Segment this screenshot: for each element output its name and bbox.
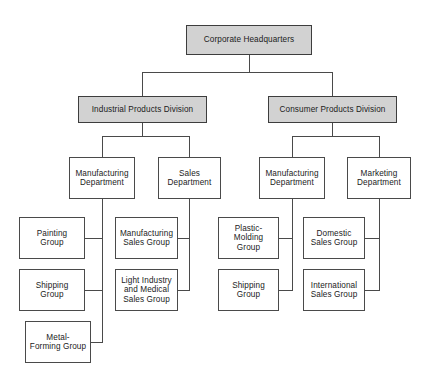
org-node-shipping-2: Shipping Group	[218, 269, 279, 311]
org-node-ind-mfg: Manufacturing Department	[69, 157, 135, 199]
connector-ind-mfg-to-metal-forming	[91, 199, 102, 342]
org-node-hq: Corporate Headquarters	[186, 25, 312, 55]
connector-con-mkt-to-domestic-sales	[365, 199, 379, 238]
org-node-con-div: Consumer Products Division	[268, 96, 397, 123]
connector-con-div-to-con-mfg	[292, 123, 333, 157]
org-node-domestic-sales: Domestic Sales Group	[303, 217, 365, 259]
connector-ind-sales-to-light-ind-sales	[178, 199, 190, 290]
connector-con-mfg-to-plastic-molding	[279, 199, 292, 238]
connector-ind-mfg-to-shipping-1	[85, 199, 102, 290]
connector-hq-to-con-div	[249, 55, 333, 96]
org-node-con-mkt: Marketing Department	[347, 157, 411, 199]
connector-hq-to-ind-div	[143, 55, 250, 96]
org-chart: Corporate HeadquartersIndustrial Product…	[0, 0, 428, 382]
org-node-metal-forming: Metal- Forming Group	[25, 321, 91, 363]
connector-ind-mfg-to-painting	[85, 199, 102, 238]
connector-con-div-to-con-mkt	[333, 123, 380, 157]
org-node-painting: Painting Group	[19, 217, 85, 259]
connector-con-mkt-to-international-sales	[365, 199, 379, 290]
connector-ind-div-to-ind-mfg	[102, 123, 143, 157]
org-node-light-ind-sales: Light Industry and Medical Sales Group	[115, 269, 178, 311]
org-node-ind-sales: Sales Department	[158, 157, 221, 199]
org-node-international-sales: International Sales Group	[303, 269, 365, 311]
org-node-shipping-1: Shipping Group	[19, 269, 85, 311]
org-node-mfg-sales: Manufacturing Sales Group	[115, 217, 178, 259]
org-node-ind-div: Industrial Products Division	[78, 96, 207, 123]
connector-con-mfg-to-shipping-2	[279, 199, 292, 290]
connector-ind-sales-to-mfg-sales	[178, 199, 190, 238]
org-node-con-mfg: Manufacturing Department	[259, 157, 325, 199]
org-node-plastic-molding: Plastic- Molding Group	[218, 217, 279, 259]
connector-ind-div-to-ind-sales	[143, 123, 190, 157]
